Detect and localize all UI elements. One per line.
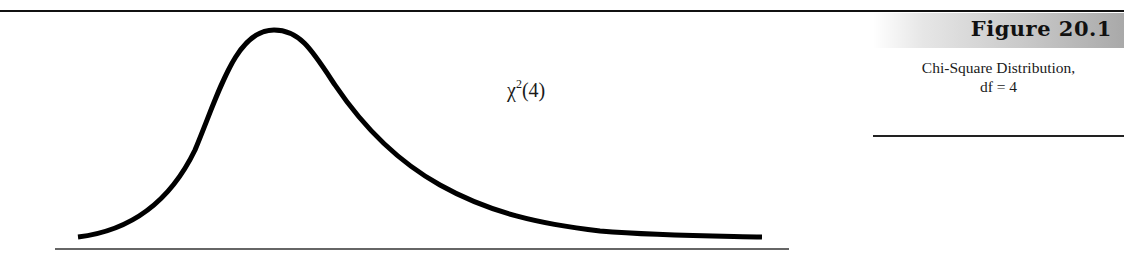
series-label-symbol: χ (507, 79, 516, 101)
series-label: χ2(4) (507, 77, 545, 102)
series-label-suffix: (4) (522, 79, 545, 101)
chi-square-density-curve (78, 30, 762, 237)
chart-plot-area (0, 0, 860, 260)
figure-number: Figure 20.1 (971, 16, 1112, 41)
caption-rule (873, 135, 1124, 137)
figure-number-box: Figure 20.1 (873, 13, 1124, 48)
caption-line-1: Chi-Square Distribution, (873, 58, 1124, 77)
figure-caption: Chi-Square Distribution, df = 4 (873, 58, 1124, 96)
caption-line-2: df = 4 (873, 77, 1124, 96)
